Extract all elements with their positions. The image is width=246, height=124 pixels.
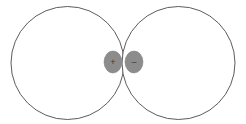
right-charge-symbol: – bbox=[131, 57, 136, 67]
right-charge-marker-group: – bbox=[125, 51, 143, 73]
left-charge-symbol: + bbox=[110, 57, 115, 67]
left-charge-marker-group: + bbox=[104, 51, 122, 73]
two-circles-diagram: + – bbox=[0, 0, 246, 124]
figure-canvas: + – bbox=[0, 0, 246, 124]
